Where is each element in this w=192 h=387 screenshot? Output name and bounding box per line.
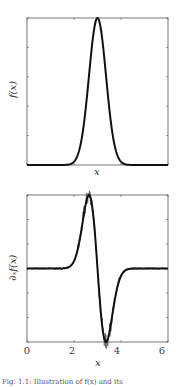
top-plot-canvas [0, 0, 192, 180]
derivative-curve [27, 195, 168, 342]
top-plot: f(x) x [0, 0, 192, 180]
xtick-6: 6 [159, 345, 165, 356]
top-ylabel: f(x) [7, 78, 18, 102]
xtick-0: 0 [24, 345, 30, 356]
xtick-2: 2 [69, 345, 75, 356]
gaussian-curve [27, 18, 168, 165]
top-xlabel: x [94, 166, 100, 177]
bottom-ylabel: ∂ₓf(x) [7, 250, 18, 286]
bottom-xlabel: x [95, 357, 101, 368]
top-axes-frame [27, 18, 168, 165]
noisy-derivative-curve [27, 191, 168, 348]
figure-caption: Fig. 1.1: Illustration of f(x) and its [2, 378, 123, 386]
xtick-4: 4 [114, 345, 120, 356]
bottom-axes-frame [27, 195, 168, 342]
